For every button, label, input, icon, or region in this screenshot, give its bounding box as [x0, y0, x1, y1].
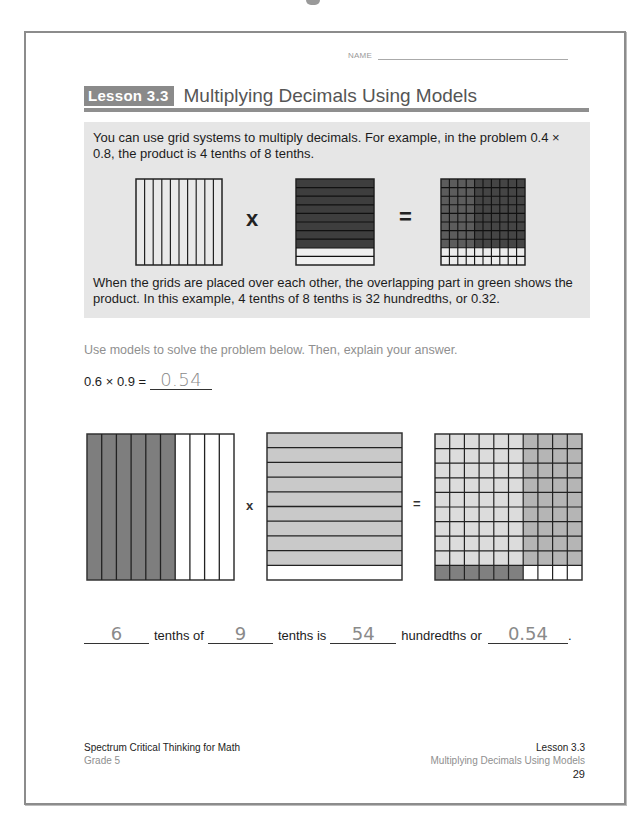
- name-input-line[interactable]: [378, 50, 568, 60]
- lesson-title: Multiplying Decimals Using Models: [184, 84, 478, 108]
- footer-grade: Grade 5: [84, 755, 240, 766]
- equation-text: 0.6 × 0.9 =: [84, 374, 146, 390]
- footer-series-title: Spectrum Critical Thinking for Math: [84, 742, 240, 753]
- model-grid-six-tenths[interactable]: [86, 433, 235, 581]
- name-field: NAME: [348, 50, 568, 60]
- page-number: 29: [431, 768, 586, 780]
- example-grid-tenths-columns: [135, 178, 223, 266]
- sentence-text-or: or: [470, 628, 482, 644]
- sentence-text-hundredths: hundredths: [401, 628, 466, 644]
- model-equals-symbol: =: [413, 496, 421, 511]
- example-grid-product: [440, 178, 526, 266]
- sentence-text-tenths-of: tenths of: [154, 628, 204, 644]
- blank-first-factor[interactable]: 6: [84, 625, 149, 644]
- explanation-text: When the grids are placed over each othe…: [93, 275, 583, 307]
- problem-equation: 0.6 × 0.9 = 0.54: [84, 371, 212, 390]
- sentence-text-tenths-is: tenths is: [278, 628, 326, 644]
- name-label: NAME: [348, 51, 372, 60]
- blank-hundredths[interactable]: 54: [330, 625, 396, 644]
- model-grid-nine-tenths[interactable]: [266, 432, 403, 581]
- footer-left: Spectrum Critical Thinking for Math Grad…: [84, 742, 240, 766]
- blank-decimal-product[interactable]: 0.54: [488, 625, 568, 644]
- instructions: Use models to solve the problem below. T…: [84, 343, 458, 357]
- example-equals-symbol: =: [399, 204, 412, 230]
- blank-second-factor[interactable]: 9: [208, 625, 273, 644]
- lesson-badge: Lesson 3.3: [84, 86, 174, 106]
- model-grid-product[interactable]: [434, 433, 583, 581]
- model-times-symbol: x: [246, 498, 253, 513]
- example-grid-tenths-rows: [295, 178, 375, 266]
- footer-lesson-subtitle: Multiplying Decimals Using Models: [431, 755, 586, 766]
- binding-mark: [306, 0, 320, 5]
- intro-text: You can use grid systems to multiply dec…: [93, 130, 583, 162]
- explanation-sentence: 6 tenths of 9 tenths is 54 hundredths or…: [84, 625, 594, 644]
- sentence-period: .: [568, 628, 572, 644]
- header-divider: [84, 108, 589, 112]
- answer-field[interactable]: 0.54: [150, 371, 212, 390]
- example-times-symbol: x: [246, 206, 258, 232]
- footer-lesson: Lesson 3.3: [431, 742, 586, 753]
- footer-right: Lesson 3.3 Multiplying Decimals Using Mo…: [431, 742, 586, 780]
